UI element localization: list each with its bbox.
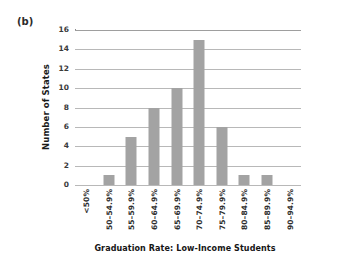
y-axis-tick-labels: 1614121086420 (53, 26, 72, 188)
y-tick-label-12: 12 (59, 65, 69, 73)
y-axis-title-text: Number of States (41, 64, 51, 150)
bar-slot (120, 30, 143, 185)
x-tick: 75–79.9% (211, 186, 234, 242)
x-tick-label: 85–89.9% (263, 189, 272, 230)
x-tick: 70–74.9% (188, 186, 211, 242)
plot-area (75, 30, 301, 185)
y-tick-label-16: 16 (59, 26, 69, 34)
bar-slot (211, 30, 234, 185)
bar[interactable] (239, 175, 250, 185)
x-tick-label: 50–54.9% (104, 189, 113, 230)
bar[interactable] (171, 88, 182, 185)
bar[interactable] (194, 40, 205, 185)
x-axis-title: Graduation Rate: Low-Income Students (60, 244, 310, 253)
x-tick: 55–59.9% (120, 186, 143, 242)
x-tick-label: 60–64.9% (150, 189, 159, 230)
y-tick-label-10: 10 (59, 84, 69, 92)
bar-slot (278, 30, 301, 185)
x-axis-tick-labels: <50%50–54.9%55–59.9%60–64.9%65–69.9%70–7… (75, 186, 301, 242)
y-tick-label-8: 8 (64, 104, 69, 112)
y-tick-label-6: 6 (64, 123, 69, 131)
x-tick: 60–64.9% (143, 186, 166, 242)
bar-slot (75, 30, 98, 185)
y-tick-label-2: 2 (64, 162, 69, 170)
bar[interactable] (216, 127, 227, 185)
x-tick: <50% (75, 186, 98, 242)
bar[interactable] (126, 137, 137, 185)
bar-slot (98, 30, 121, 185)
x-tick-label: 55–59.9% (127, 189, 136, 230)
bar-slot (256, 30, 279, 185)
bar-slot (233, 30, 256, 185)
bar-slot (165, 30, 188, 185)
y-tick-label-4: 4 (64, 142, 69, 150)
x-tick-label: 80–84.9% (240, 189, 249, 230)
x-tick: 90–94.9% (278, 186, 301, 242)
x-tick: 85–89.9% (256, 186, 279, 242)
bar-series (75, 30, 301, 185)
bar[interactable] (149, 108, 160, 186)
x-tick-label: 90–94.9% (285, 189, 294, 230)
bar-slot (188, 30, 211, 185)
y-tick-label-0: 0 (64, 181, 69, 189)
y-axis-title: Number of States (39, 28, 53, 186)
y-tick-label-14: 14 (59, 45, 69, 53)
histogram-figure: (b) Number of States 1614121086420 <50%5… (0, 0, 337, 260)
bar[interactable] (103, 175, 114, 185)
x-tick-label: <50% (82, 189, 91, 214)
x-tick-label: 70–74.9% (195, 189, 204, 230)
x-tick: 50–54.9% (98, 186, 121, 242)
x-tick-label: 65–69.9% (172, 189, 181, 230)
x-tick: 80–84.9% (233, 186, 256, 242)
bar[interactable] (262, 175, 273, 185)
x-tick: 65–69.9% (165, 186, 188, 242)
x-tick-label: 75–79.9% (217, 189, 226, 230)
bar-slot (143, 30, 166, 185)
panel-label: (b) (17, 16, 33, 28)
